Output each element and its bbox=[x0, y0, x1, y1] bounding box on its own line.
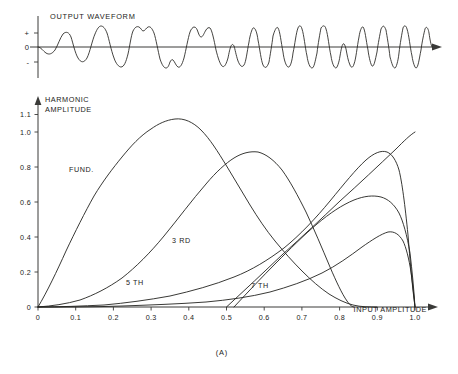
y-ticklabel-0-8: 0.8 bbox=[20, 163, 31, 172]
curve-third-harmonic bbox=[38, 152, 354, 307]
x-ticklabel-0-6: 0.6 bbox=[259, 313, 270, 322]
x-ticklabel-0: 0 bbox=[36, 313, 40, 322]
y-ticklabel-1-1: 1.1 bbox=[20, 110, 31, 119]
waveform-panel: + 0 - OUTPUT WAVEFORM bbox=[25, 12, 442, 78]
y-ticklabel-0-4: 0.4 bbox=[20, 233, 31, 242]
chart-y-axis-title-line1: HARMONIC bbox=[45, 95, 89, 104]
waveform-label-positive: + bbox=[25, 29, 30, 38]
figure-svg: + 0 - OUTPUT WAVEFORM bbox=[0, 0, 458, 374]
x-ticklabel-0-9: 0.9 bbox=[372, 313, 383, 322]
curve-fifth-harmonic bbox=[38, 151, 415, 307]
x-ticklabel-0-4: 0.4 bbox=[183, 313, 194, 322]
x-ticklabel-0-3: 0.3 bbox=[146, 313, 157, 322]
curve-label-fundamental: FUND. bbox=[69, 165, 94, 174]
curve-label-seventh: 7 TH bbox=[251, 281, 269, 290]
chart-x-axis-arrow-icon bbox=[428, 303, 438, 310]
chart-y-axis-title-line2: AMPLITUDE bbox=[45, 105, 92, 114]
curve-fundamental bbox=[38, 119, 377, 307]
harmonic-chart-panel: 0 0.2 0.4 0.6 0.8 1.0 1.1 bbox=[20, 95, 438, 322]
waveform-title: OUTPUT WAVEFORM bbox=[50, 12, 136, 21]
chart-y-ticks bbox=[35, 115, 39, 308]
curve-seventh-harmonic bbox=[38, 232, 415, 307]
chart-x-ticklabels: 0 0.1 0.2 0.3 0.4 0.5 0.6 0.7 0.8 0.9 1.… bbox=[36, 313, 421, 322]
waveform-label-zero: 0 bbox=[25, 43, 29, 52]
waveform-label-negative: - bbox=[26, 58, 29, 67]
waveform-axis-arrow-icon bbox=[432, 43, 442, 50]
y-ticklabel-0-2: 0.2 bbox=[20, 268, 31, 277]
chart-y-ticklabels: 0 0.2 0.4 0.6 0.8 1.0 1.1 bbox=[20, 110, 31, 312]
x-ticklabel-0-2: 0.2 bbox=[108, 313, 119, 322]
x-ticklabel-1-0: 1.0 bbox=[410, 313, 421, 322]
x-ticklabel-0-7: 0.7 bbox=[296, 313, 307, 322]
chart-y-axis-arrow-icon bbox=[35, 96, 42, 105]
curve-label-third: 3 RD bbox=[172, 236, 191, 245]
figure-caption: (A) bbox=[216, 348, 228, 357]
x-ticklabel-0-8: 0.8 bbox=[334, 313, 345, 322]
x-ticklabel-0-5: 0.5 bbox=[221, 313, 232, 322]
x-ticklabel-0-1: 0.1 bbox=[70, 313, 81, 322]
y-ticklabel-0: 0 bbox=[27, 303, 31, 312]
figure-root: + 0 - OUTPUT WAVEFORM bbox=[0, 0, 458, 374]
curve-label-fifth: 5 TH bbox=[126, 278, 144, 287]
y-ticklabel-1-0: 1.0 bbox=[20, 128, 31, 137]
y-ticklabel-0-6: 0.6 bbox=[20, 198, 31, 207]
